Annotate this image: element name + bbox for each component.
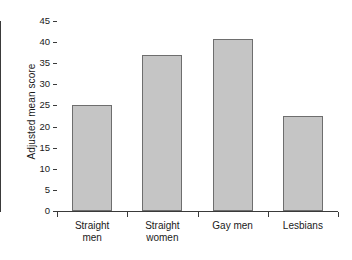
bar-chart: Adjusted mean score 051015202530354045 S… (0, 0, 352, 260)
y-tick-label: 20 (30, 122, 50, 132)
y-tick-label: 45 (30, 16, 50, 26)
y-tick-mark (53, 84, 57, 85)
y-tick-mark (53, 190, 57, 191)
x-axis-label-gay-men: Gay men (198, 220, 268, 232)
y-tick-label-wrap: 15 (28, 143, 50, 153)
y-tick-label: 5 (30, 185, 50, 195)
y-tick-label: 0 (30, 206, 50, 216)
y-tick-label-wrap: 35 (28, 58, 50, 68)
y-tick-label: 40 (30, 37, 50, 47)
x-tick-mark (268, 212, 269, 217)
x-tick-mark (127, 212, 128, 217)
y-tick-mark (53, 148, 57, 149)
y-axis-line (0, 21, 1, 212)
x-tick-mark (57, 212, 58, 217)
x-tick-mark (198, 212, 199, 217)
x-axis-label-straight-women: Straight women (127, 220, 197, 244)
bar-straight-women (142, 55, 182, 211)
y-tick-label-wrap: 10 (28, 164, 50, 174)
y-tick-mark (53, 127, 57, 128)
y-tick-label-wrap: 0 (28, 206, 50, 216)
y-tick-label: 30 (30, 79, 50, 89)
y-tick-label-wrap: 30 (28, 79, 50, 89)
x-axis-label-straight-men: Straight men (57, 220, 127, 244)
y-tick-mark (53, 63, 57, 64)
y-tick-label: 35 (30, 58, 50, 68)
x-tick-mark (338, 212, 339, 217)
y-tick-label: 25 (30, 100, 50, 110)
bar-straight-men (72, 105, 112, 211)
y-tick-label-wrap: 20 (28, 122, 50, 132)
bar-lesbians (283, 116, 323, 211)
y-tick-label: 10 (30, 164, 50, 174)
y-tick-label: 15 (30, 143, 50, 153)
bar-gay-men (213, 39, 253, 211)
y-tick-label-wrap: 40 (28, 37, 50, 47)
y-tick-mark (53, 21, 57, 22)
y-tick-label-wrap: 45 (28, 16, 50, 26)
y-tick-mark (53, 42, 57, 43)
y-tick-label-wrap: 25 (28, 100, 50, 110)
y-tick-label-wrap: 5 (28, 185, 50, 195)
x-axis-label-lesbians: Lesbians (268, 220, 338, 232)
y-tick-mark (53, 169, 57, 170)
y-tick-mark (53, 105, 57, 106)
